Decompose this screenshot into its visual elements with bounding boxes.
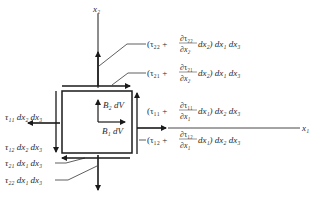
leader-top-normal bbox=[99, 44, 146, 66]
label-top-normal: (τ₂₂ + ∂τ₂₂ ∂x₂ dx₂) dx₁ dx₃ bbox=[147, 34, 240, 54]
svg-text:dx₂) dx₁ dx₃: dx₂) dx₁ dx₃ bbox=[198, 68, 240, 78]
svg-text:(τ₁₁ +: (τ₁₁ + bbox=[147, 106, 167, 116]
body-force-b2-label: B₂ dV bbox=[103, 100, 125, 110]
svg-text:∂τ₁₁: ∂τ₁₁ bbox=[180, 101, 193, 110]
leader-bottom-shear bbox=[55, 158, 85, 163]
svg-text:dx₂) dx₁ dx₃: dx₂) dx₁ dx₃ bbox=[198, 39, 240, 49]
leader-top-shear bbox=[112, 73, 146, 85]
label-right-normal: (τ₁₁ + ∂τ₁₁ ∂x₁ dx₁) dx₂ dx₃ bbox=[147, 101, 240, 121]
svg-text:dx₁) dx₂ dx₃: dx₁) dx₂ dx₃ bbox=[198, 135, 240, 145]
label-top-shear: (τ₂₁ + ∂τ₂₁ ∂x₂ dx₂) dx₁ dx₃ bbox=[147, 63, 240, 83]
svg-text:(τ₁₂ +: (τ₁₂ + bbox=[147, 135, 167, 145]
svg-text:∂τ₂₂: ∂τ₂₂ bbox=[180, 34, 193, 43]
x1-axis-label: x₁ bbox=[301, 123, 309, 133]
leader-bottom-normal bbox=[55, 166, 97, 180]
svg-text:∂x₁: ∂x₁ bbox=[180, 112, 191, 121]
svg-text:∂x₂: ∂x₂ bbox=[180, 74, 191, 83]
stress-element-diagram: x₂ x₁ B₂ dV B₁ dV (τ₂₂ + ∂τ₂₂ ∂x₂ dx₂) d… bbox=[0, 0, 314, 212]
label-left-shear: τ₁₂ dx₂ dx₃ bbox=[5, 142, 42, 152]
svg-text:dx₁) dx₂ dx₃: dx₁) dx₂ dx₃ bbox=[198, 106, 240, 116]
x2-axis-label: x₂ bbox=[92, 4, 100, 14]
svg-text:(τ₂₂ +: (τ₂₂ + bbox=[147, 39, 167, 49]
svg-text:∂τ₁₂: ∂τ₁₂ bbox=[180, 130, 193, 139]
label-bottom-shear: τ₂₁ dx₁ dx₃ bbox=[5, 158, 42, 168]
label-right-shear: (τ₁₂ + ∂τ₁₂ ∂x₁ dx₁) dx₂ dx₃ bbox=[147, 130, 240, 150]
svg-text:∂x₂: ∂x₂ bbox=[180, 45, 191, 54]
label-bottom-normal: τ₂₂ dx₁ dx₃ bbox=[5, 175, 42, 185]
label-left-normal: τ₁₁ dx₂ dx₃ bbox=[5, 112, 42, 122]
svg-text:∂τ₂₁: ∂τ₂₁ bbox=[180, 63, 193, 72]
svg-text:∂x₁: ∂x₁ bbox=[180, 141, 191, 150]
svg-text:(τ₂₁ +: (τ₂₁ + bbox=[147, 68, 167, 78]
body-force-b1-label: B₁ dV bbox=[102, 126, 124, 136]
